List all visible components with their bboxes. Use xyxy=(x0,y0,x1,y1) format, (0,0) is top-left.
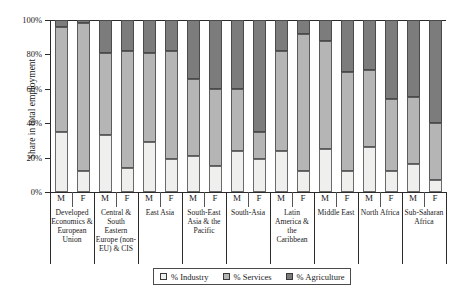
bar-segment-agriculture xyxy=(297,20,310,34)
bar-segment-industry xyxy=(407,164,420,192)
bar-segment-agriculture xyxy=(143,20,156,53)
sex-label-m: M xyxy=(401,193,425,203)
bar-segment-services xyxy=(253,132,266,160)
y-axis-label: 60% xyxy=(2,85,42,93)
bar-segment-services xyxy=(429,123,442,180)
stacked-bar[interactable] xyxy=(319,20,332,192)
sex-label-f: F xyxy=(159,193,183,203)
sex-label-m: M xyxy=(93,193,117,203)
bar-segment-industry xyxy=(253,159,266,192)
category-label: North Africa xyxy=(359,208,401,217)
stacked-bar[interactable] xyxy=(231,20,244,192)
bar-segment-industry xyxy=(385,171,398,192)
category-axis: MFDeveloped Economics & European UnionMF… xyxy=(50,192,446,264)
sex-separator xyxy=(292,192,293,207)
bar-segment-agriculture xyxy=(99,20,112,53)
stacked-bar[interactable] xyxy=(99,20,112,192)
stacked-bar[interactable] xyxy=(253,20,266,192)
bar-segment-agriculture xyxy=(407,20,420,97)
legend-label: % Agriculture xyxy=(297,272,345,282)
bar-segment-services xyxy=(143,53,156,142)
bar-segment-services xyxy=(209,89,222,166)
bar-segment-industry xyxy=(297,171,310,192)
y-axis-label: 80% xyxy=(2,50,42,58)
bar-segment-industry xyxy=(363,147,376,192)
stacked-bar[interactable] xyxy=(429,20,442,192)
bar-segment-services xyxy=(121,51,134,168)
bar-segment-services xyxy=(187,79,200,156)
stacked-bar[interactable] xyxy=(209,20,222,192)
bar-segment-services xyxy=(319,41,332,149)
bar-segment-services xyxy=(363,70,376,147)
sex-separator xyxy=(160,192,161,207)
stacked-bar[interactable] xyxy=(275,20,288,192)
bar-segment-industry xyxy=(143,142,156,192)
sex-separator xyxy=(248,192,249,207)
category-label: Sub-Saharan Africa xyxy=(403,208,445,226)
bar-segment-agriculture xyxy=(187,20,200,78)
sex-separator xyxy=(204,192,205,207)
bar-segment-agriculture xyxy=(275,20,288,51)
stacked-bar[interactable] xyxy=(297,20,310,192)
sex-separator xyxy=(72,192,73,207)
bar-segment-agriculture xyxy=(55,20,68,27)
bar-segment-agriculture xyxy=(363,20,376,70)
category-label: Latin America & the Caribbean xyxy=(271,208,313,244)
sex-label-f: F xyxy=(247,193,271,203)
bar-segment-services xyxy=(77,23,90,171)
bar-segment-industry xyxy=(187,156,200,192)
bar-segment-industry xyxy=(165,159,178,192)
bar-segment-industry xyxy=(341,171,354,192)
bar-segment-industry xyxy=(231,151,244,192)
bar-segment-agriculture xyxy=(341,20,354,72)
stacked-bar-chart: Share in total employment 0%20%40%60%80%… xyxy=(0,0,458,295)
sex-label-m: M xyxy=(225,193,249,203)
sex-separator xyxy=(380,192,381,207)
bar-segment-agriculture xyxy=(231,20,244,89)
bar-segment-industry xyxy=(209,166,222,192)
sex-label-f: F xyxy=(291,193,315,203)
bar-segment-services xyxy=(55,27,68,132)
bar-segment-industry xyxy=(429,180,442,192)
sex-label-m: M xyxy=(313,193,337,203)
legend-item-industry[interactable]: % Industry xyxy=(160,272,209,282)
sex-separator xyxy=(424,192,425,207)
bar-segment-services xyxy=(341,72,354,172)
y-axis-title: Share in total employment xyxy=(27,19,37,199)
sex-label-m: M xyxy=(137,193,161,203)
category-label: Developed Economics & European Union xyxy=(51,208,93,244)
bar-segment-agriculture xyxy=(385,20,398,99)
stacked-bar[interactable] xyxy=(341,20,354,192)
legend-item-services[interactable]: % Services xyxy=(223,272,272,282)
bar-segment-services xyxy=(407,97,420,164)
bars-layer xyxy=(50,20,446,192)
stacked-bar[interactable] xyxy=(77,20,90,192)
stacked-bar[interactable] xyxy=(187,20,200,192)
sex-label-m: M xyxy=(357,193,381,203)
sex-label-m: M xyxy=(181,193,205,203)
category-label: South-Asia xyxy=(227,208,269,217)
legend-item-agriculture[interactable]: % Agriculture xyxy=(286,272,345,282)
bar-segment-services xyxy=(385,99,398,171)
y-axis-label: 40% xyxy=(2,119,42,127)
stacked-bar[interactable] xyxy=(165,20,178,192)
bar-segment-services xyxy=(99,53,112,136)
sex-label-m: M xyxy=(49,193,73,203)
bar-segment-agriculture xyxy=(319,20,332,41)
legend-swatch-icon xyxy=(160,273,167,280)
y-axis-label: 0% xyxy=(2,188,42,196)
stacked-bar[interactable] xyxy=(143,20,156,192)
category-label: Middle East xyxy=(315,208,357,217)
chart-legend: % Industry% Services% Agriculture xyxy=(153,268,351,285)
stacked-bar[interactable] xyxy=(363,20,376,192)
bar-segment-industry xyxy=(99,135,112,192)
stacked-bar[interactable] xyxy=(121,20,134,192)
stacked-bar[interactable] xyxy=(385,20,398,192)
bar-segment-agriculture xyxy=(121,20,134,51)
legend-swatch-icon xyxy=(223,273,230,280)
sex-label-f: F xyxy=(115,193,139,203)
sex-separator xyxy=(336,192,337,207)
stacked-bar[interactable] xyxy=(407,20,420,192)
stacked-bar[interactable] xyxy=(55,20,68,192)
bar-segment-services xyxy=(297,34,310,172)
